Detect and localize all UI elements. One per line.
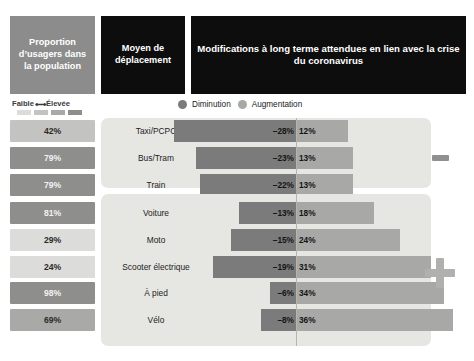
table-row: Taxi/PCPC–28%12%: [101, 120, 431, 142]
value-increase: 18%: [299, 202, 339, 224]
axis-center-line: [296, 118, 297, 188]
mode-label: Voiture: [101, 202, 211, 224]
proportion-cell: 69%: [10, 309, 95, 331]
legend-item-label: Augmentation: [252, 100, 303, 109]
value-decrease: –6%: [236, 282, 294, 304]
scale-labels: Faible ⟷ Élevée: [12, 99, 98, 108]
legend-item-label: Diminution: [192, 100, 231, 109]
value-increase: 24%: [299, 229, 339, 251]
value-decrease: –22%: [236, 174, 294, 196]
proportion-column: 42%79%79%81%29%24%98%69%: [10, 118, 95, 346]
circle-icon: [238, 100, 247, 109]
mode-label: Scooter électrique: [101, 256, 211, 278]
proportion-cell: 24%: [10, 256, 95, 278]
table-row: Bus/Tram–23%13%: [101, 147, 431, 169]
mode-label: Vélo: [101, 309, 211, 331]
value-increase: 12%: [299, 120, 339, 142]
table-row: Vélo–8%36%: [101, 309, 431, 331]
scale-swatches: [12, 110, 98, 115]
group-decrease-dominant: Taxi/PCPC–28%12%Bus/Tram–23%13%Train–22%…: [101, 118, 431, 188]
value-decrease: –28%: [236, 120, 294, 142]
table-row: Train–22%13%: [101, 174, 431, 196]
minus-icon: [432, 155, 449, 161]
proportion-cell: 98%: [10, 282, 95, 304]
proportion-cell: 29%: [10, 229, 95, 251]
mode-label: Bus/Tram: [101, 147, 211, 169]
group-increase-dominant: Voiture–13%18%Moto–15%24%Scooter électri…: [101, 194, 431, 346]
value-decrease: –15%: [236, 229, 294, 251]
value-decrease: –19%: [236, 256, 294, 278]
mode-label: Train: [101, 174, 211, 196]
legend-item-diminution[interactable]: Diminution: [178, 100, 231, 109]
chart-body: 42%79%79%81%29%24%98%69% Taxi/PCPC–28%12…: [10, 118, 466, 346]
table-row: À pied–6%34%: [101, 282, 431, 304]
table-row: Moto–15%24%: [101, 229, 431, 251]
scale-swatch-2: [34, 110, 48, 115]
mode-label: À pied: [101, 282, 211, 304]
value-increase: 34%: [299, 282, 339, 304]
plus-icon: [425, 258, 455, 288]
value-increase: 31%: [299, 256, 339, 278]
proportion-cell: 79%: [10, 174, 95, 196]
value-increase: 13%: [299, 174, 339, 196]
proportion-cell: 42%: [10, 120, 95, 142]
circle-icon: [178, 100, 187, 109]
value-decrease: –23%: [236, 147, 294, 169]
value-increase: 13%: [299, 147, 339, 169]
header-modifications: Modifications à long terme attendues en …: [191, 16, 466, 94]
intensity-scale-legend: Faible ⟷ Élevée: [12, 99, 98, 115]
scale-high-label: Élevée: [46, 99, 70, 108]
double-arrow-icon: ⟷: [35, 99, 45, 109]
scale-swatch-1: [17, 110, 31, 115]
legend-item-augmentation[interactable]: Augmentation: [238, 100, 303, 109]
header-transport-mode: Moyen de déplacement: [101, 16, 185, 94]
mode-label: Moto: [101, 229, 211, 251]
value-increase: 36%: [299, 309, 339, 331]
scale-swatch-4: [68, 110, 82, 115]
series-legend: DiminutionAugmentation: [178, 100, 302, 109]
axis-center-line: [296, 194, 297, 346]
table-row: Voiture–13%18%: [101, 202, 431, 224]
legend-row: Faible ⟷ Élevée DiminutionAugmentation: [10, 99, 466, 119]
table-header: Proportion d’usagers dans la population …: [10, 16, 466, 94]
proportion-cell: 81%: [10, 202, 95, 224]
header-proportion: Proportion d’usagers dans la population: [10, 16, 95, 94]
value-decrease: –13%: [236, 202, 294, 224]
proportion-cell: 79%: [10, 147, 95, 169]
value-decrease: –8%: [236, 309, 294, 331]
scale-low-label: Faible: [12, 99, 34, 108]
scale-swatch-3: [51, 110, 65, 115]
table-row: Scooter électrique–19%31%: [101, 256, 431, 278]
